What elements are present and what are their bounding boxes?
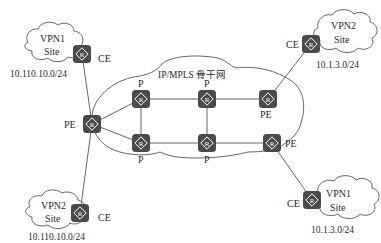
router-pe-top-right[interactable]: R bbox=[259, 90, 277, 108]
router-icon: R bbox=[266, 96, 271, 104]
router-p-bot-mid[interactable]: R bbox=[198, 134, 216, 152]
router-icon: R bbox=[309, 41, 314, 49]
router-icon: R bbox=[78, 210, 83, 218]
site-cloud-vpn2-right bbox=[314, 10, 377, 53]
router-icon: R bbox=[139, 96, 144, 104]
label-pe-top-right: PE bbox=[260, 109, 272, 120]
router-pe-bot-right[interactable]: R bbox=[263, 134, 281, 152]
router-icon: R bbox=[205, 96, 210, 104]
site-vpn1-left-line1: VPN1 bbox=[40, 33, 65, 44]
router-ce-vpn2-left[interactable]: R bbox=[71, 204, 89, 222]
site-vpn2-right-subnet: 10.1.3.0/24 bbox=[316, 60, 359, 70]
site-vpn2-left-line2: Site bbox=[45, 213, 61, 224]
network-diagram: R R R R R R R R R R R CE PE P P PE P P P… bbox=[0, 0, 381, 243]
site-vpn2-right-line1: VPN2 bbox=[331, 20, 356, 31]
router-icon: R bbox=[270, 140, 275, 148]
router-p-bot-left[interactable]: R bbox=[132, 134, 150, 152]
label-pe-left: PE bbox=[64, 119, 76, 130]
router-ce-vpn1-right[interactable]: R bbox=[303, 191, 321, 209]
router-icon: R bbox=[90, 121, 95, 129]
label-ce-vpn1-left: CE bbox=[98, 53, 111, 64]
router-pe-left[interactable]: R bbox=[83, 115, 101, 133]
site-vpn2-left-line1: VPN2 bbox=[41, 200, 66, 211]
site-vpn1-right-line2: Site bbox=[330, 202, 346, 213]
site-vpn2-left-subnet: 10.110.10.0/24 bbox=[28, 232, 85, 242]
site-vpn1-right-subnet: 10.1.3.0/24 bbox=[311, 225, 354, 235]
site-vpn2-right-line2: Site bbox=[334, 34, 350, 45]
router-icon: R bbox=[139, 140, 144, 148]
site-vpn1-left-line2: Site bbox=[44, 46, 60, 57]
site-vpn1-right-line1: VPN1 bbox=[326, 188, 351, 199]
router-ce-vpn2-right[interactable]: R bbox=[302, 35, 320, 53]
router-icon: R bbox=[205, 140, 210, 148]
label-pe-bot-right: PE bbox=[285, 138, 297, 149]
label-p-top-left: P bbox=[138, 78, 144, 89]
label-ce-vpn2-left: CE bbox=[98, 212, 111, 223]
backbone-label: IP/MPLS 骨干网 bbox=[158, 70, 226, 80]
router-p-top-mid[interactable]: R bbox=[198, 90, 216, 108]
router-ce-vpn1-left[interactable]: R bbox=[73, 45, 91, 63]
label-p-bot-left: P bbox=[138, 154, 144, 165]
router-icon: R bbox=[80, 51, 85, 59]
label-ce-vpn1-right: CE bbox=[287, 198, 300, 209]
site-vpn1-left-subnet: 10.110.10.0/24 bbox=[10, 69, 67, 79]
label-ce-vpn2-right: CE bbox=[286, 39, 299, 50]
router-icon: R bbox=[310, 197, 315, 205]
router-p-top-left[interactable]: R bbox=[132, 90, 150, 108]
label-p-bot-mid: P bbox=[204, 154, 210, 165]
